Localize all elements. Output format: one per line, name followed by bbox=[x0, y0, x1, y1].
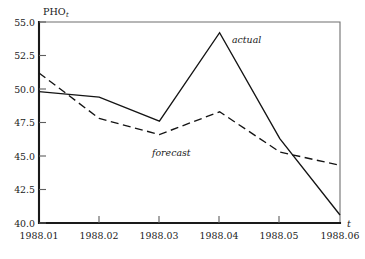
y-tick-label: 55.0 bbox=[14, 17, 35, 28]
x-tick-label: 1988.03 bbox=[140, 230, 179, 241]
x-axis-title: t bbox=[347, 218, 351, 229]
x-tick-label: 1988.04 bbox=[200, 230, 239, 241]
series-annotation-actual: actual bbox=[232, 34, 261, 45]
series-annotation-forecast: forecast bbox=[151, 147, 191, 158]
chart-background bbox=[0, 0, 365, 259]
x-tick-label: 1988.01 bbox=[20, 230, 59, 241]
y-tick-label: 42.5 bbox=[14, 184, 35, 195]
y-tick-label: 40.0 bbox=[14, 218, 35, 229]
y-axis-title: PHO bbox=[43, 6, 66, 17]
x-tick-label: 1988.05 bbox=[260, 230, 299, 241]
y-tick-label: 52.5 bbox=[14, 50, 35, 61]
x-tick-label: 1988.02 bbox=[80, 230, 119, 241]
y-tick-label: 47.5 bbox=[14, 117, 35, 128]
line-chart: PHO t 55.0 52.5 50.0 47.5 45.0 42.5 40.0… bbox=[0, 0, 365, 259]
y-axis-title-subscript: t bbox=[66, 11, 69, 19]
chart-container: PHO t 55.0 52.5 50.0 47.5 45.0 42.5 40.0… bbox=[0, 0, 365, 259]
y-tick-label: 45.0 bbox=[14, 151, 35, 162]
y-tick-label: 50.0 bbox=[14, 84, 35, 95]
x-tick-label: 1988.06 bbox=[321, 230, 360, 241]
